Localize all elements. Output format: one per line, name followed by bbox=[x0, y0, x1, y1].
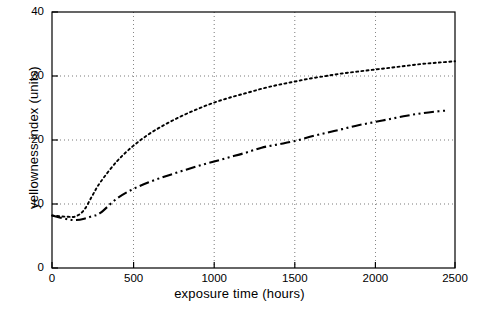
x-tick-label-0: 0 bbox=[32, 272, 72, 284]
x-tick-label-3: 1500 bbox=[275, 272, 315, 284]
plot-area bbox=[0, 0, 479, 316]
x-axis-title: exposure time (hours) bbox=[0, 286, 479, 301]
y-tick-label-40: 40 bbox=[14, 5, 44, 17]
data-series bbox=[52, 61, 455, 220]
chart-container: 0 500 1000 1500 2000 2500 0 10 20 30 40 … bbox=[0, 0, 479, 316]
x-tick-label-2: 1000 bbox=[194, 272, 234, 284]
x-tick-label-1: 500 bbox=[114, 272, 154, 284]
gridlines bbox=[52, 12, 455, 268]
y-axis-title: yellowness index (units) bbox=[26, 23, 41, 253]
series-dotted-line bbox=[52, 61, 455, 217]
x-tick-label-4: 2000 bbox=[355, 272, 395, 284]
x-tick-label-5: 2500 bbox=[435, 272, 475, 284]
series-dash-dot-line bbox=[52, 111, 447, 220]
y-tick-label-0: 0 bbox=[14, 261, 44, 273]
